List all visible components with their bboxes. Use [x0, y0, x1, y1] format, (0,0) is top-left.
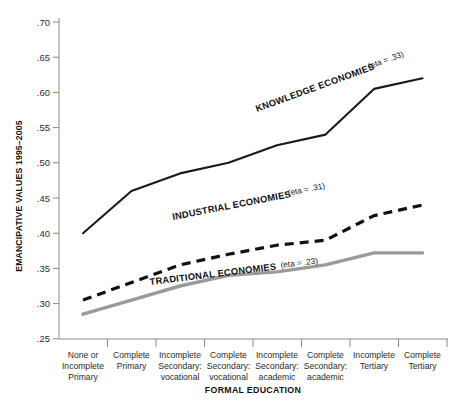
- x-category-line: academic: [307, 372, 344, 382]
- x-category-6: Incomplete Tertiary: [353, 350, 395, 371]
- x-axis-title: FORMAL EDUCATION: [205, 385, 301, 395]
- x-category-line: Secondary:: [255, 361, 298, 371]
- x-category-line: Primary: [68, 372, 98, 382]
- x-category-5: Complete Secondary: academic: [304, 350, 347, 382]
- x-category-3: Complete Secondary: vocational: [207, 350, 250, 382]
- series-label-knowledge-text: KNOWLEDGE ECONOMIES: [254, 62, 375, 114]
- y-axis-title: EMANCIPATIVE VALUES 1995–2005: [14, 120, 24, 271]
- series-label-industrial: INDUSTRIAL ECONOMIES (eta = .31): [171, 181, 326, 222]
- x-category-line: Complete: [404, 350, 441, 360]
- series-line-traditional: [83, 253, 423, 314]
- series-label-industrial-text: INDUSTRIAL ECONOMIES: [171, 189, 291, 222]
- y-tick-label: .30: [37, 298, 50, 309]
- x-axis-separators: [108, 339, 448, 347]
- series-line-knowledge: [83, 78, 423, 233]
- series-label-knowledge: KNOWLEDGE ECONOMIES (eta = .33): [254, 50, 406, 114]
- x-category-line: Tertiary: [408, 361, 437, 371]
- x-axis-category-labels: None or Incomplete Primary Complete Prim…: [62, 350, 441, 382]
- y-tick-label: .40: [37, 228, 50, 239]
- y-tick-label: .55: [37, 122, 50, 133]
- x-category-line: Primary: [117, 361, 147, 371]
- y-tick-label: .65: [37, 52, 50, 63]
- line-chart: EMANCIPATIVE VALUES 1995–2005 .70 .65 .6…: [0, 0, 452, 411]
- x-category-line: vocational: [209, 372, 248, 382]
- x-category-line: Secondary:: [207, 361, 250, 371]
- y-tick-label: .50: [37, 157, 50, 168]
- y-axis-ticks: .70 .65 .60 .55 .50 .45 .40 .35 .30 .25: [37, 17, 59, 345]
- x-category-line: vocational: [161, 372, 200, 382]
- x-category-7: Complete Tertiary: [404, 350, 441, 371]
- x-category-line: Incomplete: [159, 350, 201, 360]
- chart-container: EMANCIPATIVE VALUES 1995–2005 .70 .65 .6…: [0, 0, 452, 411]
- y-tick-label: .70: [37, 17, 50, 28]
- series-label-traditional: TRADITIONAL ECONOMIES (eta = .23): [149, 256, 319, 287]
- y-tick-label: .35: [37, 263, 50, 274]
- series-label-industrial-eta: (eta = .31): [287, 181, 326, 197]
- x-category-0: None or Incomplete Primary: [62, 350, 104, 382]
- x-category-line: Secondary:: [304, 361, 347, 371]
- x-category-line: None or: [68, 350, 99, 360]
- x-category-line: Tertiary: [360, 361, 389, 371]
- y-tick-label: .25: [37, 333, 50, 344]
- x-category-1: Complete Primary: [113, 350, 150, 371]
- x-category-line: Incomplete: [353, 350, 395, 360]
- series-label-knowledge-eta: (eta = .33): [367, 50, 406, 71]
- x-category-line: Incomplete: [62, 361, 104, 371]
- y-tick-label: .45: [37, 193, 50, 204]
- x-category-line: Incomplete: [256, 350, 298, 360]
- x-category-line: Complete: [113, 350, 150, 360]
- x-category-line: academic: [259, 372, 296, 382]
- y-tick-label: .60: [37, 87, 50, 98]
- x-category-4: Incomplete Secondary: academic: [255, 350, 298, 382]
- x-category-line: Secondary:: [158, 361, 201, 371]
- x-category-2: Incomplete Secondary: vocational: [158, 350, 201, 382]
- x-category-line: Complete: [210, 350, 247, 360]
- x-category-line: Complete: [307, 350, 344, 360]
